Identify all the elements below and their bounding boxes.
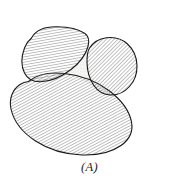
figure-caption: (A) xyxy=(0,160,179,174)
right-grain xyxy=(87,38,137,95)
figure-container: (A) xyxy=(0,0,179,184)
grain-packing-diagram xyxy=(0,0,179,184)
